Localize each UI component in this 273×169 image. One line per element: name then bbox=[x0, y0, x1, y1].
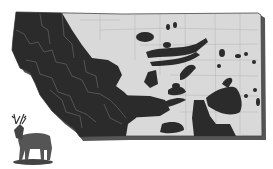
deer-icon bbox=[12, 114, 53, 165]
montana-range-map bbox=[0, 0, 273, 169]
